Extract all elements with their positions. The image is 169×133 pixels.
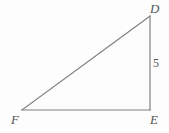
edge-FD-hypotenuse <box>22 16 150 110</box>
side-length-label-DE: 5 <box>153 57 159 69</box>
vertex-label-D: D <box>150 2 159 15</box>
vertex-label-E: E <box>150 113 158 126</box>
triangle-diagram <box>0 0 169 133</box>
geometry-figure: D E F 5 <box>0 0 169 133</box>
vertex-label-F: F <box>11 113 19 126</box>
